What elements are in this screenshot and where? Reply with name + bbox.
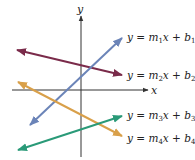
y-axis-label: y	[76, 3, 84, 16]
line-1-label: y = m1x + b1	[126, 31, 195, 45]
line-4-label: y = m4x + b4	[126, 132, 195, 146]
linear-equations-diagram: x y y = m1x + b1 y = m2x + b2 y = m3x + …	[0, 0, 195, 160]
line-2-label: y = m2x + b2	[126, 69, 195, 83]
x-axis-label: x	[151, 84, 158, 97]
line-3-label: y = m3x + b3	[126, 109, 195, 123]
